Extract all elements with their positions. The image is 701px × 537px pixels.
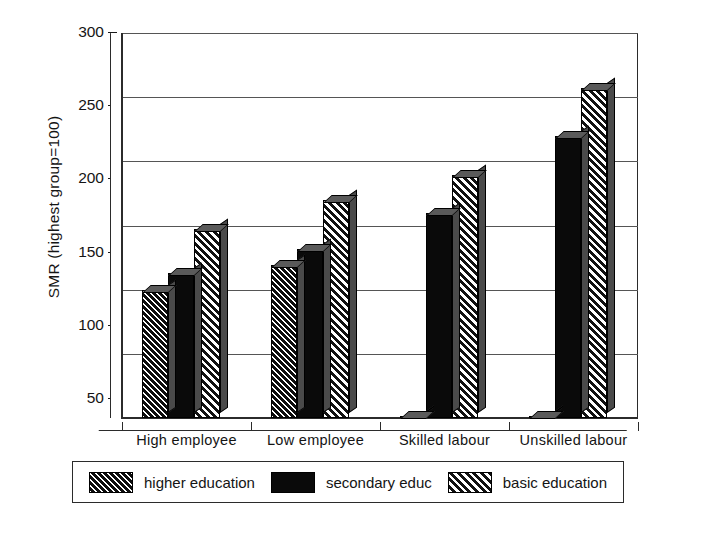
x-tick-1 xyxy=(251,422,252,431)
legend-label-basic-education: basic education xyxy=(503,474,607,491)
bar-side-3d xyxy=(607,78,615,413)
chart-legend: higher education secondary educ basic ed… xyxy=(72,461,624,503)
y-tick-label-300: 300 xyxy=(52,23,104,41)
bar-side-3d xyxy=(297,255,305,413)
bar-skilled-labour-higher-education xyxy=(400,416,426,418)
legend-label-higher-education: higher education xyxy=(144,474,255,491)
bar-side-3d xyxy=(478,165,486,413)
x-axis-label-low-employee: Low employee xyxy=(251,432,380,448)
gridline-250 xyxy=(122,97,638,98)
bar-face xyxy=(142,290,168,418)
bar-side-3d xyxy=(220,219,228,413)
bar-side-3d xyxy=(581,125,589,413)
x-tick-2 xyxy=(380,422,381,431)
y-tick-label-100: 100 xyxy=(52,316,104,334)
legend-swatch-secondary-educ xyxy=(271,472,315,493)
bar-skilled-labour-secondary-educ xyxy=(426,213,452,418)
bar-unskilled-labour-higher-education xyxy=(529,416,555,418)
y-tick-label-150: 150 xyxy=(52,243,104,261)
bar-face xyxy=(426,213,452,418)
legend-item-secondary-educ: secondary educ xyxy=(271,472,432,493)
bar-low-employee-higher-education xyxy=(271,265,297,418)
legend-swatch-higher-education xyxy=(89,472,133,493)
floor-3d xyxy=(98,418,638,431)
bar-unskilled-labour-secondary-educ xyxy=(555,136,581,418)
legend-swatch-basic-education xyxy=(448,472,492,493)
legend-item-higher-education: higher education xyxy=(89,472,255,493)
x-tick-4 xyxy=(638,422,639,431)
gridline-300 xyxy=(122,33,638,34)
bar-face xyxy=(271,265,297,418)
bar-side-3d xyxy=(452,202,460,413)
legend-item-basic-education: basic education xyxy=(448,472,607,493)
y-axis-line xyxy=(121,33,123,419)
x-tick-0 xyxy=(122,422,123,431)
y-tick-label-50: 50 xyxy=(52,389,104,407)
plot-area xyxy=(122,33,638,418)
legend-label-secondary-educ: secondary educ xyxy=(326,474,432,491)
bar-side-3d xyxy=(349,189,357,413)
chart-root: SMR (highest group=100) 0501001502002503… xyxy=(0,0,701,537)
x-axis-label-skilled-labour: Skilled labour xyxy=(380,432,509,448)
bar-side-3d xyxy=(168,279,176,413)
x-tick-3 xyxy=(509,422,510,431)
y-tick-label-200: 200 xyxy=(52,169,104,187)
bar-high-employee-higher-education xyxy=(142,290,168,418)
x-axis-label-high-employee: High employee xyxy=(122,432,251,448)
y-tick-label-250: 250 xyxy=(52,96,104,114)
x-axis-label-unskilled-labour: Unskilled labour xyxy=(509,432,638,448)
bar-side-3d xyxy=(194,263,202,413)
bar-side-3d xyxy=(323,238,331,413)
bar-face xyxy=(555,136,581,418)
